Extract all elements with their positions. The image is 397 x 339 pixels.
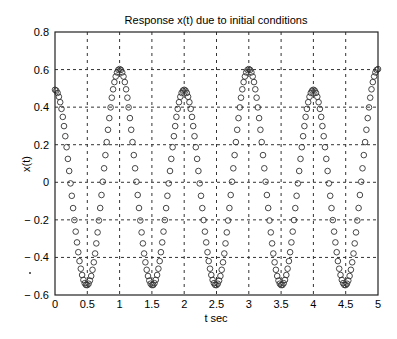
data-point: [360, 166, 366, 172]
data-point: [200, 205, 206, 211]
data-point: [76, 249, 82, 255]
data-point: [295, 181, 301, 187]
x-tick-label: 3.5: [273, 298, 288, 310]
data-point: [258, 127, 264, 133]
x-tick-label: 0: [52, 298, 58, 310]
data-point: [322, 144, 328, 150]
data-point: [205, 249, 211, 255]
data-point: [138, 218, 144, 224]
data-point: [231, 166, 237, 172]
data-point: [197, 181, 203, 187]
data-point: [196, 168, 202, 174]
data-point: [194, 156, 200, 162]
data-point: [69, 193, 75, 199]
data-point: [99, 192, 105, 198]
data-point: [367, 95, 373, 101]
stray-dot: [29, 272, 31, 274]
data-point: [105, 127, 111, 133]
data-point: [91, 260, 97, 266]
data-point: [192, 133, 198, 139]
data-point: [188, 106, 194, 112]
data-point: [300, 133, 306, 139]
data-point: [190, 123, 196, 129]
x-tick-label: 1.5: [144, 298, 159, 310]
data-point: [74, 240, 80, 246]
data-point: [223, 241, 229, 247]
data-point: [287, 249, 293, 255]
data-point: [364, 127, 370, 133]
data-point: [166, 181, 172, 187]
data-point: [269, 241, 275, 247]
plot-frame: [55, 32, 378, 295]
data-point: [134, 179, 140, 185]
data-point: [318, 114, 324, 120]
data-point: [225, 218, 231, 224]
data-point: [187, 99, 193, 105]
data-point: [100, 179, 106, 185]
x-tick-label: 4.5: [338, 298, 353, 310]
data-point: [240, 87, 246, 93]
chart: Response x(t) due to initial conditions …: [0, 0, 397, 339]
data-point: [60, 114, 66, 120]
data-point: [333, 240, 339, 246]
data-point: [260, 152, 266, 158]
data-point: [95, 230, 101, 236]
x-tick-label: 2: [181, 298, 187, 310]
y-tick-label: 0.2: [34, 139, 49, 151]
data-point: [97, 205, 103, 211]
data-point: [238, 95, 244, 101]
data-point: [193, 144, 199, 150]
data-point: [272, 260, 278, 266]
data-point: [159, 240, 165, 246]
x-tick-label: 5: [375, 298, 381, 310]
data-point: [334, 249, 340, 255]
y-tick-label: − 0.6: [24, 289, 49, 301]
data-point: [305, 99, 311, 105]
x-axis-label: t sec: [204, 312, 228, 324]
data-point: [64, 144, 70, 150]
data-point: [353, 230, 359, 236]
data-point: [304, 106, 310, 112]
data-point: [293, 205, 299, 211]
data-point: [135, 192, 141, 198]
data-point: [61, 123, 67, 129]
data-point: [70, 205, 76, 211]
data-point: [56, 94, 62, 100]
data-point: [262, 166, 268, 172]
x-tick-label: 3: [246, 298, 252, 310]
data-point: [94, 241, 100, 247]
data-point: [130, 139, 136, 145]
data-point: [232, 152, 238, 158]
data-point: [219, 267, 225, 273]
data-point: [176, 99, 182, 105]
data-point: [358, 179, 364, 185]
x-tick-label: 1: [117, 298, 123, 310]
data-point: [131, 152, 137, 158]
chart-title: Response x(t) due to initial conditions: [125, 14, 308, 26]
data-point: [158, 249, 164, 255]
data-point: [370, 79, 376, 85]
data-point: [136, 205, 142, 211]
data-point: [57, 99, 63, 105]
data-point: [156, 266, 162, 272]
data-point: [227, 205, 233, 211]
data-point: [144, 267, 150, 273]
data-point: [263, 179, 269, 185]
data-point: [132, 166, 138, 172]
y-tick-label: − 0.4: [24, 251, 49, 263]
data-point: [303, 114, 309, 120]
data-point: [324, 156, 330, 162]
data-point: [141, 251, 147, 257]
data-point: [241, 79, 247, 85]
data-point: [236, 115, 242, 121]
data-point: [233, 139, 239, 145]
data-point: [220, 260, 226, 266]
data-point: [267, 218, 273, 224]
data-point: [143, 260, 149, 266]
data-point: [178, 94, 184, 100]
data-point: [109, 95, 115, 101]
data-point: [290, 229, 296, 235]
data-point: [329, 205, 335, 211]
data-point: [222, 251, 228, 257]
data-point: [325, 168, 331, 174]
